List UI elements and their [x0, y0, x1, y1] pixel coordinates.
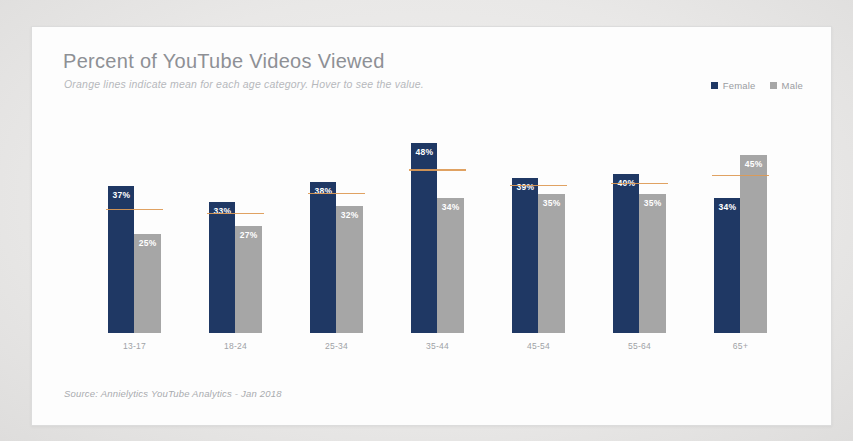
- bar-value-label: 48%: [411, 147, 437, 157]
- axis-tick-label: 65+: [690, 341, 791, 351]
- mean-line-35-44[interactable]: [409, 169, 466, 171]
- bar-value-label: 34%: [714, 202, 740, 212]
- bar-female-45-54[interactable]: 39%: [512, 178, 538, 333]
- bar-pair: 37%25%: [108, 115, 161, 333]
- chart-legend: Female Male: [711, 80, 803, 91]
- bar-male-13-17[interactable]: 25%: [134, 234, 160, 333]
- bar-female-65+[interactable]: 34%: [714, 198, 740, 333]
- bar-female-35-44[interactable]: 48%: [411, 143, 437, 333]
- bar-group: 40%35%: [613, 115, 666, 333]
- bar-male-45-54[interactable]: 35%: [538, 194, 564, 333]
- chart-subtitle: Orange lines indicate mean for each age …: [64, 78, 424, 90]
- axis-tick-label: 35-44: [387, 341, 488, 351]
- bar-pair: 34%45%: [714, 115, 767, 333]
- chart-source-note: Source: Annielytics YouTube Analytics - …: [64, 388, 282, 399]
- mean-line-18-24[interactable]: [207, 213, 264, 215]
- square-swatch-icon: [770, 82, 777, 89]
- bar-group: 48%34%: [411, 115, 464, 333]
- chart-card: Percent of YouTube Videos Viewed Orange …: [31, 26, 832, 426]
- mean-line-25-34[interactable]: [308, 193, 365, 195]
- bar-group: 38%32%: [310, 115, 363, 333]
- bar-pair: 40%35%: [613, 115, 666, 333]
- bar-value-label: 35%: [639, 198, 665, 208]
- bar-group: 34%45%: [714, 115, 767, 333]
- bar-value-label: 45%: [740, 159, 766, 169]
- bar-value-label: 32%: [336, 210, 362, 220]
- bar-value-label: 25%: [134, 238, 160, 248]
- bar-value-label: 33%: [209, 206, 235, 216]
- mean-line-13-17[interactable]: [106, 209, 163, 211]
- bar-value-label: 37%: [108, 190, 134, 200]
- bar-pair: 38%32%: [310, 115, 363, 333]
- bar-value-label: 34%: [437, 202, 463, 212]
- legend-label-female: Female: [723, 80, 756, 91]
- bar-male-55-64[interactable]: 35%: [639, 194, 665, 333]
- bar-pair: 48%34%: [411, 115, 464, 333]
- bar-group: 37%25%: [108, 115, 161, 333]
- chart-x-axis: 13-1718-2425-3435-4445-5455-6465+: [32, 333, 831, 355]
- bar-group: 39%35%: [512, 115, 565, 333]
- bar-male-25-34[interactable]: 32%: [336, 206, 362, 333]
- axis-tick-label: 55-64: [589, 341, 690, 351]
- bar-pair: 33%27%: [209, 115, 262, 333]
- bar-group: 33%27%: [209, 115, 262, 333]
- bar-male-65+[interactable]: 45%: [740, 155, 766, 333]
- legend-item-male[interactable]: Male: [770, 80, 803, 91]
- bar-male-18-24[interactable]: 27%: [235, 226, 261, 333]
- mean-line-55-64[interactable]: [611, 183, 668, 185]
- bar-male-35-44[interactable]: 34%: [437, 198, 463, 333]
- bar-value-label: 38%: [310, 186, 336, 196]
- square-swatch-icon: [711, 82, 718, 89]
- axis-tick-label: 25-34: [286, 341, 387, 351]
- mean-line-65+[interactable]: [712, 175, 769, 177]
- axis-tick-label: 18-24: [185, 341, 286, 351]
- axis-tick-label: 13-17: [84, 341, 185, 351]
- bar-value-label: 27%: [235, 230, 261, 240]
- mean-line-45-54[interactable]: [510, 185, 567, 187]
- legend-label-male: Male: [782, 80, 803, 91]
- chart-plot-area: 37%25%33%27%38%32%48%34%39%35%40%35%34%4…: [32, 115, 831, 333]
- chart-title: Percent of YouTube Videos Viewed: [63, 50, 385, 73]
- bar-female-18-24[interactable]: 33%: [209, 202, 235, 333]
- bar-pair: 39%35%: [512, 115, 565, 333]
- bar-value-label: 35%: [538, 198, 564, 208]
- axis-tick-label: 45-54: [488, 341, 589, 351]
- bar-female-55-64[interactable]: 40%: [613, 174, 639, 333]
- legend-item-female[interactable]: Female: [711, 80, 756, 91]
- bar-female-25-34[interactable]: 38%: [310, 182, 336, 333]
